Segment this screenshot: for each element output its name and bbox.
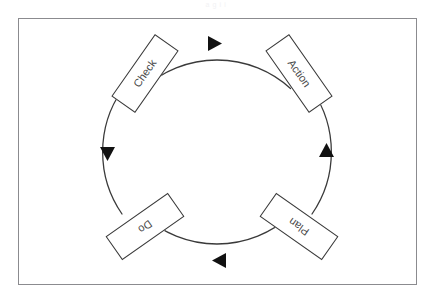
- cycle-arrow-graphic: [0, 0, 432, 301]
- node-plan-label: Plan: [286, 215, 311, 237]
- node-do-label: Do: [136, 217, 154, 235]
- node-action-label: Action: [286, 57, 313, 89]
- diagram-canvas: a g i i Action Plan Do Ch: [0, 0, 432, 301]
- arrowhead-bottom: [212, 253, 226, 268]
- node-check-label: Check: [131, 56, 159, 88]
- arrowhead-top: [208, 36, 222, 51]
